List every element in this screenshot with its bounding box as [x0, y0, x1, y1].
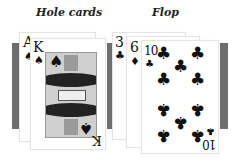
club-pip: ♣: [190, 45, 205, 62]
spade-icon: ♠: [49, 54, 63, 70]
hole-cards-title: Hole cards: [36, 6, 102, 19]
diamond-icon: ♦: [130, 56, 140, 67]
card-rank: 3: [115, 35, 124, 49]
card-rank: 6: [130, 40, 139, 54]
club-pip: ♣: [190, 71, 205, 88]
card-rank-inverted: 10: [203, 138, 216, 150]
club-icon: ♣: [115, 50, 125, 61]
face-band-bottom: [45, 103, 97, 117]
card-rank-inverted: K: [92, 134, 102, 147]
card-ten-of-clubs[interactable]: 10 ♣ ♣ ♣ ♣ ♣ ♣ ♣ ♣ ♣ ♣ ♣ ♣ 10: [141, 40, 219, 154]
club-pip: ♣: [156, 45, 171, 62]
club-pip: ♣: [173, 58, 188, 75]
card-king-of-spades[interactable]: K ♠ ♠ ♠ K: [30, 38, 106, 150]
club-pip: ♣: [173, 114, 188, 131]
club-pip: ♣: [156, 101, 171, 118]
card-rank: K: [33, 40, 43, 54]
club-pip: ♣: [156, 127, 171, 144]
face-center-plate: [58, 90, 86, 101]
club-pip: ♣: [190, 101, 205, 118]
club-icon: ♣: [145, 59, 154, 69]
spade-icon: ♠: [34, 55, 44, 66]
club-pip: ♣: [156, 71, 171, 88]
face-crown-top: [64, 55, 78, 71]
flop-title: Flop: [152, 6, 179, 19]
face-crown-bottom: [64, 119, 78, 135]
face-band-top: [45, 73, 97, 87]
king-face-illustration: ♠ ♠: [45, 52, 97, 138]
club-icon: ♣: [206, 126, 215, 136]
deck-edge: [220, 43, 228, 129]
